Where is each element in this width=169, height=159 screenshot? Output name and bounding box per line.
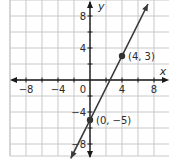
data-point: [119, 53, 125, 59]
x-tick-label: −4: [51, 84, 66, 95]
y-tick-label: 8: [80, 11, 86, 22]
data-line: [71, 4, 148, 158]
y-tick-label: 4: [80, 43, 86, 54]
x-tick-label: 0: [80, 84, 86, 95]
y-axis-up-arrow-icon: [87, 1, 93, 8]
y-axis-label: y: [97, 0, 105, 13]
x-tick-label: 8: [151, 84, 157, 95]
data-point: [87, 117, 93, 123]
data-point-label: (0, −5): [96, 115, 131, 126]
y-axis-down-arrow-icon: [87, 151, 93, 158]
line-y-equals-2x-minus-5: [71, 4, 148, 158]
x-axis-label: x: [159, 65, 167, 78]
x-tick-label: −8: [19, 84, 34, 95]
coordinate-plane: −8−404884−4−8xy (0, −5)(4, 3): [0, 0, 169, 159]
x-axis-left-arrow-icon: [10, 77, 17, 83]
data-point-label: (4, 3): [128, 51, 155, 62]
x-tick-label: 4: [119, 84, 125, 95]
y-tick-label: −4: [71, 107, 86, 118]
graph-svg: −8−404884−4−8xy (0, −5)(4, 3): [0, 0, 169, 159]
axes: [10, 1, 169, 158]
